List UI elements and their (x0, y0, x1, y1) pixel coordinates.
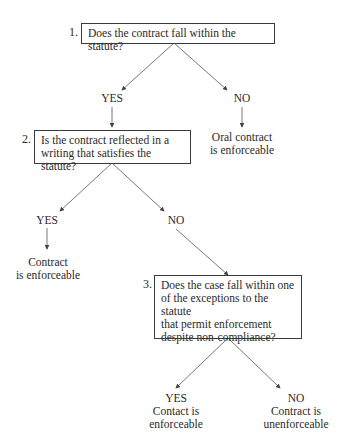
q3-line: despite non-compliance? (161, 331, 295, 344)
question-box-3: Does the case fall within one of the exc… (154, 275, 302, 339)
q1-yes-label: YES (97, 92, 127, 105)
q2-no-label: NO (161, 214, 191, 227)
q2-line: writing that satisfies the statute? (41, 147, 184, 173)
q3-yes-label: YES (136, 392, 216, 405)
q3-no-label: NO (256, 392, 336, 405)
q2-line: Is the contract reflected in a (41, 134, 184, 147)
outcome-line: Contract is (256, 405, 336, 418)
q3-line: of the exceptions to the statute (161, 292, 295, 318)
q1-number: 1. (69, 25, 78, 39)
q3-line: that permit enforcement (161, 318, 295, 331)
q3-line: Does the case fall within one (161, 279, 295, 292)
q3-no-outcome: NO Contract is unenforceable (256, 392, 336, 431)
outcome-line: Contract (10, 256, 86, 269)
q1-no-label: NO (227, 92, 257, 105)
outcome-line: is enforceable (10, 269, 86, 282)
q2-yes-label: YES (32, 214, 62, 227)
outcome-line: Oral contract (200, 131, 284, 144)
question-box-1: Does the contract fall within the statut… (81, 23, 275, 44)
outcome-line: enforceable (136, 418, 216, 431)
q3-yes-outcome: YES Contact is enforceable (136, 392, 216, 431)
outcome-line: is enforceable (200, 144, 284, 157)
question-box-2: Is the contract reflected in a writing t… (34, 130, 191, 164)
outcome-line: Contact is (136, 405, 216, 418)
q1-no-outcome: Oral contract is enforceable (200, 131, 284, 157)
q2-yes-outcome: Contract is enforceable (10, 256, 86, 282)
q2-number: 2. (22, 132, 31, 146)
outcome-line: unenforceable (256, 418, 336, 431)
q3-number: 3. (143, 277, 152, 291)
